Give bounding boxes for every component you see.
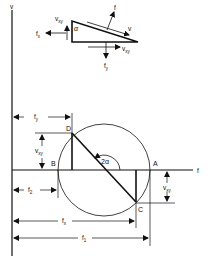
fy-dim-label: fy	[34, 113, 39, 122]
v-shear-label: v	[128, 25, 132, 32]
mohr-circle-diagram: α vxy fx f v vxy fy v f 2α D	[0, 0, 210, 260]
angle-2alpha-label: 2α	[101, 158, 109, 165]
fx-dim-label: fx	[62, 217, 67, 226]
alpha-label: α	[74, 25, 79, 32]
point-B-label: B	[51, 160, 56, 167]
fx-label: fx	[36, 30, 41, 39]
dimensions: fy vxy f2 vxy fx f1	[14, 113, 175, 246]
f-axis-label: f	[197, 167, 199, 174]
vxy-bottom-label: vxy	[122, 45, 131, 54]
vxy-left-label: vxy	[55, 15, 64, 24]
diameter-DC	[72, 133, 136, 202]
v-axis-label: v	[10, 3, 14, 10]
f-normal-arrow	[107, 12, 114, 30]
point-C-label: C	[138, 206, 143, 213]
f1-dim-label: f1	[82, 234, 87, 243]
f2-dim-label: f2	[28, 186, 33, 195]
fy-label: fy	[104, 62, 109, 71]
stress-element: α vxy fx f v vxy fy	[36, 4, 138, 71]
f-normal-label: f	[114, 4, 116, 11]
vxy-left-dim-label: vxy	[35, 147, 44, 156]
point-A-label: A	[153, 160, 158, 167]
vxy-right-dim-label: vxy	[163, 184, 172, 193]
axes: v f	[10, 3, 199, 256]
point-D-label: D	[66, 125, 71, 132]
